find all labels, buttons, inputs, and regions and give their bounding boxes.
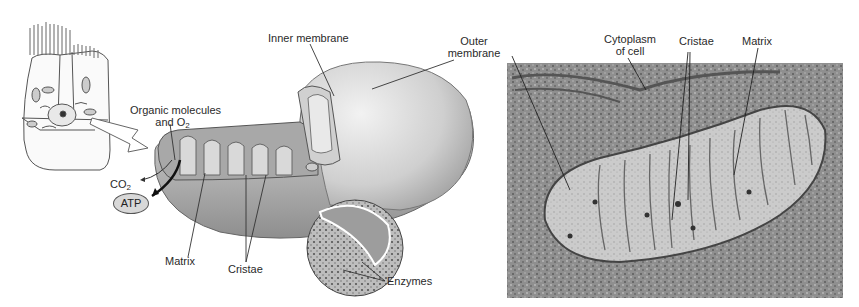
outer-text: Outer	[444, 35, 504, 47]
and-o-text: and O	[155, 116, 185, 128]
label-cristae-right: Cristae	[679, 35, 714, 47]
membrane-text: membrane	[444, 47, 504, 59]
label-matrix-right: Matrix	[742, 35, 772, 47]
label-enzymes: Enzymes	[387, 275, 432, 287]
electron-micrograph	[507, 48, 843, 298]
and-o2-text: and O2	[130, 116, 215, 128]
organic-molecules-text: Organic molecules	[130, 104, 215, 116]
cytoplasm-text: Cytoplasm	[600, 33, 660, 45]
label-co2: CO2	[110, 178, 131, 190]
label-organic-molecules: Organic molecules and O2	[130, 104, 215, 128]
of-cell-text: of cell	[600, 45, 660, 57]
label-outer-membrane: Outer membrane	[444, 35, 504, 59]
co-text: CO	[110, 178, 127, 190]
o2-subscript: 2	[185, 121, 189, 130]
cell-diagram	[22, 22, 110, 170]
label-cristae-left: Cristae	[228, 263, 263, 275]
atp-badge: ATP	[113, 193, 149, 214]
label-cytoplasm-of-cell: Cytoplasm of cell	[600, 33, 660, 57]
co2-subscript: 2	[127, 183, 131, 192]
label-matrix-left: Matrix	[165, 255, 195, 267]
diagram-illustration	[0, 0, 859, 307]
label-inner-membrane: Inner membrane	[268, 32, 349, 44]
